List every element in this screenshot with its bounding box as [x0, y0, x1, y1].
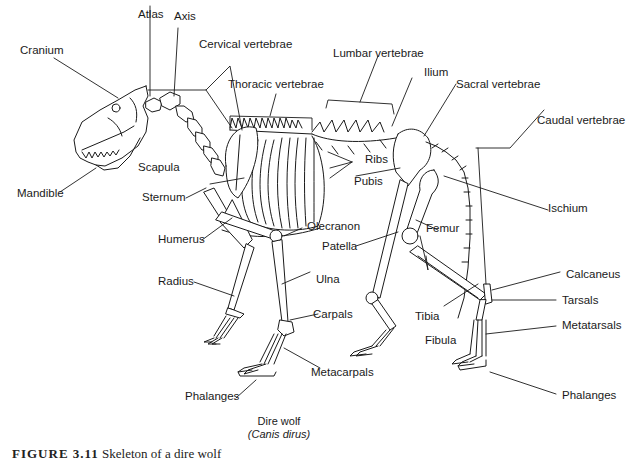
- label-patella: Patella: [322, 240, 357, 253]
- label-femur: Femur: [426, 222, 459, 235]
- label-thoracic-vertebrae: Thoracic vertebrae: [228, 78, 324, 91]
- label-humerus: Humerus: [158, 233, 205, 246]
- label-pubis: Pubis: [354, 175, 383, 188]
- figure-title: Dire wolf: [219, 415, 339, 427]
- label-lumbar-vertebrae: Lumbar vertebrae: [333, 47, 424, 60]
- label-metacarpals: Metacarpals: [311, 366, 374, 379]
- label-ulna: Ulna: [316, 273, 340, 286]
- label-atlas: Atlas: [138, 8, 164, 21]
- label-calcaneus: Calcaneus: [566, 268, 620, 281]
- label-ischium: Ischium: [548, 202, 588, 215]
- label-sacral-vertebrae: Sacral vertebrae: [456, 78, 540, 91]
- label-axis: Axis: [174, 10, 196, 23]
- label-tarsals: Tarsals: [562, 294, 598, 307]
- lumbar-vertebrae: [312, 120, 396, 154]
- label-ribs: Ribs: [365, 153, 388, 166]
- label-fibula: Fibula: [425, 334, 456, 347]
- label-cranium: Cranium: [20, 44, 63, 57]
- caption-label: FIGURE 3.11: [12, 446, 99, 461]
- skull: [74, 86, 148, 170]
- label-caudal-vertebrae: Caudal vertebrae: [537, 114, 625, 127]
- caption-text: Skeleton of a dire wolf: [102, 446, 221, 461]
- label-phalanges-hind: Phalanges: [562, 389, 616, 402]
- figure-caption: FIGURE 3.11 Skeleton of a dire wolf: [12, 446, 221, 462]
- figure-subtitle: (Canis dirus): [219, 428, 339, 440]
- label-carpals: Carpals: [313, 308, 353, 321]
- label-olecranon: Olecranon: [307, 220, 360, 233]
- label-scapula: Scapula: [138, 161, 180, 174]
- label-mandible: Mandible: [17, 187, 64, 200]
- label-phalanges-front: Phalanges: [185, 390, 239, 403]
- label-radius: Radius: [158, 275, 194, 288]
- label-metatarsals: Metatarsals: [562, 319, 621, 332]
- label-cervical-vertebrae: Cervical vertebrae: [199, 38, 292, 51]
- label-tibia: Tibia: [415, 310, 440, 323]
- label-ilium: Ilium: [424, 66, 448, 79]
- label-sternum: Sternum: [142, 191, 185, 204]
